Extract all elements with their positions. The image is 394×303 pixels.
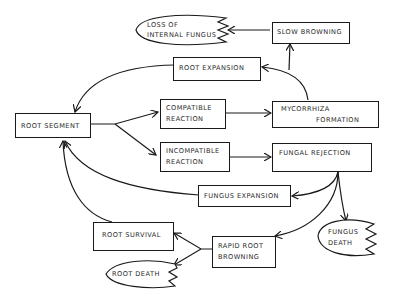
node-incompatible-reaction: INCOMPATIBLE REACTION [160,142,230,172]
node-root-expansion: ROOT EXPANSION [173,57,261,81]
node-mycorrhiza-formation: MYCORRHIZA FORMATION [272,101,379,128]
node-fungal-rejection: FUNGAL REJECTION [272,143,372,172]
node-slow-browning: SLOW BROWNING [272,22,350,44]
node-root-survival: ROOT SURVIVAL [93,222,174,251]
edge-root-survival-to-root-segment [63,141,112,222]
node-label: SLOW BROWNING [277,27,342,37]
node-rapid-root-browning: RAPID ROOT BROWNING [212,236,276,268]
node-root-death: ROOT DEATH [112,269,160,279]
node-label-line2: BROWNING [218,252,259,262]
edge-fungal-rejection-to-fungus-death [338,172,346,221]
node-loss-of-internal-fungus-line2: INTERNAL FUNGUS [147,30,216,40]
edge-mycorrhiza-to-slow-browning [289,44,290,70]
node-fungus-expansion: FUNGUS EXPANSION [198,185,291,207]
node-label-line2: REACTION [166,157,203,167]
node-label: FUNGUS EXPANSION [204,191,279,201]
node-compatible-reaction: COMPATIBLE REACTION [160,99,226,129]
edge-root-segment-to-incompatible [115,124,156,155]
node-loss-of-internal-fungus-line1: LOSS OF [147,20,178,30]
node-fungus-death-line1: FUNGUS [328,227,358,237]
node-label-line1: INCOMPATIBLE [166,146,220,156]
node-label: ROOT EXPANSION [179,63,244,73]
node-label: FUNGAL REJECTION [279,148,351,158]
node-label-line1: MYCORRHIZA [281,104,330,114]
node-root-segment: ROOT SEGMENT [15,113,91,138]
edge-mycorrhiza-to-root-expansion [262,67,308,100]
edge-rapid-browning-to-root-death [174,249,201,265]
edge-root-segment-to-compatible [90,112,158,124]
edge-fungal-rejection-to-fungus-expansion [292,172,338,196]
node-label: ROOT SURVIVAL [102,230,161,240]
node-label-line2: FORMATION [316,115,359,125]
node-label-line1: COMPATIBLE [166,103,212,113]
node-label-line1: RAPID ROOT [218,241,263,251]
node-fungus-death-line2: DEATH [328,238,352,248]
node-label: ROOT SEGMENT [21,121,80,131]
node-label-line2: REACTION [166,114,203,124]
edge-rapid-browning-to-root-survival [174,233,212,249]
